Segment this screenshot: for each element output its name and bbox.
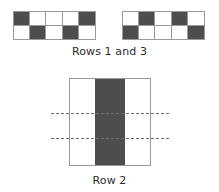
grid-left-cell-r2c1 [14,26,30,40]
grid-left-cell-r1c4 [63,12,79,26]
grid-left-cell-r1c1 [14,12,30,26]
grid-right-cell-r1c1 [123,12,139,26]
row-2-center-band [95,79,125,165]
grid-right-cell-r1c5 [188,12,204,26]
grid-right-cell-r2c1 [123,26,139,40]
grid-right-cell-r2c3 [155,26,171,40]
grid-left-cell-r2c5 [79,26,95,40]
grid-right-cell-r1c4 [172,12,188,26]
grid-left-cell-r2c2 [30,26,46,40]
dashed-guide-line-2 [51,138,169,139]
grid-left-cell-r1c2 [30,12,46,26]
grid-right-cell-r2c5 [188,26,204,40]
grid-left-cell-r2c4 [63,26,79,40]
caption-row-2: Row 2 [0,174,219,187]
grid-left [13,11,96,40]
grid-right-cell-r1c3 [155,12,171,26]
row-2-figure: Row 2 [0,66,219,192]
grid-right-cell-r2c4 [172,26,188,40]
dashed-guide-line-1 [51,113,169,114]
grid-right-cell-r2c2 [139,26,155,40]
grid-left-cell-r1c3 [46,12,62,26]
grid-right-cell-r1c2 [139,12,155,26]
grid-right [122,11,205,40]
caption-rows-1-and-3: Rows 1 and 3 [0,45,219,58]
grid-left-cell-r2c3 [46,26,62,40]
grid-left-cell-r1c5 [79,12,95,26]
row-2-square [69,78,151,166]
rows-1-and-3-figure: Rows 1 and 3 [0,0,219,62]
